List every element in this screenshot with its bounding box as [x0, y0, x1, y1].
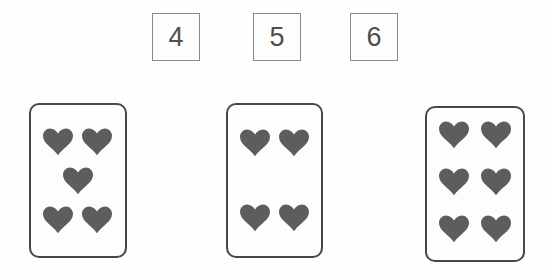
heart-icon [481, 121, 511, 149]
card-4-hearts[interactable] [226, 103, 323, 258]
heart-row [439, 215, 511, 243]
heart-row [43, 206, 112, 234]
number-box-5[interactable]: 5 [253, 13, 301, 61]
heart-icon [439, 168, 469, 196]
heart-row [43, 128, 112, 156]
heart-row [439, 168, 511, 196]
number-box-4[interactable]: 4 [152, 13, 200, 61]
heart-icon [43, 128, 73, 156]
heart-icon [43, 206, 73, 234]
heart-row [439, 121, 511, 149]
counting-worksheet: 4 5 6 [0, 0, 548, 278]
heart-icon [481, 168, 511, 196]
heart-row [240, 204, 309, 232]
heart-icon [240, 129, 270, 157]
card-6-hearts[interactable] [425, 106, 525, 262]
heart-icon [82, 128, 112, 156]
card-5-hearts[interactable] [29, 103, 127, 258]
number-box-6[interactable]: 6 [350, 13, 398, 61]
heart-row [240, 129, 309, 157]
heart-row [43, 167, 112, 195]
heart-icon [82, 206, 112, 234]
heart-icon [439, 121, 469, 149]
heart-icon [240, 204, 270, 232]
heart-icon [481, 215, 511, 243]
heart-icon [63, 167, 93, 195]
heart-icon [439, 215, 469, 243]
heart-icon [279, 129, 309, 157]
heart-icon [279, 204, 309, 232]
